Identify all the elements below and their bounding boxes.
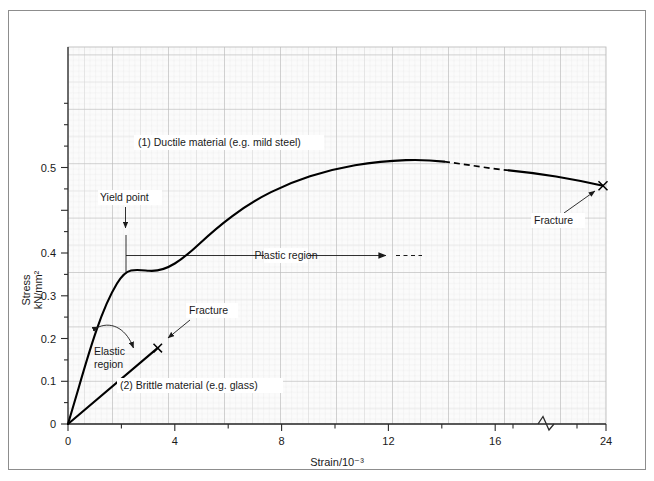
- x-axis-ticks: [68, 424, 606, 431]
- y-axis-ticks: [61, 103, 68, 424]
- y-tick-label-1: 0.1: [41, 375, 56, 387]
- x-tick-label-4: 16: [489, 435, 501, 447]
- x-tick-label-2: 8: [279, 435, 285, 447]
- elastic-region-label-line1: Elastic: [94, 345, 125, 357]
- y-axis-title: Stress kN/mm²: [20, 270, 44, 309]
- brittle-material-annotation: (2) Brittle material (e.g. glass): [117, 378, 283, 393]
- figure-container: 0 0.1 0.2 0.3 0.4 0.5 Stress kN/mm²: [0, 0, 654, 481]
- ductile-material-label: (1) Ductile material (e.g. mild steel): [138, 136, 301, 148]
- y-tick-label-2: 0.2: [41, 333, 56, 345]
- ductile-fracture-label: Fracture: [534, 214, 573, 226]
- x-tick-labels: 0 4 8 12 16 24: [65, 435, 612, 447]
- elastic-region-label-line2: region: [94, 358, 123, 370]
- brittle-fracture-label: Fracture: [189, 304, 228, 316]
- stress-strain-chart: 0 0.1 0.2 0.3 0.4 0.5 Stress kN/mm²: [0, 0, 654, 481]
- yield-point-label: Yield point: [100, 191, 149, 203]
- x-tick-label-5: 24: [600, 435, 612, 447]
- plot-grid: [68, 47, 606, 424]
- y-tick-label-5: 0.5: [41, 162, 56, 174]
- x-axis-title: Strain/10⁻³: [310, 456, 364, 468]
- y-axis-title-line1: Stress: [20, 274, 32, 306]
- y-tick-label-0: 0: [50, 418, 56, 430]
- x-tick-label-3: 12: [382, 435, 394, 447]
- brittle-material-label: (2) Brittle material (e.g. glass): [120, 379, 258, 391]
- y-tick-label-4: 0.4: [41, 247, 56, 259]
- plastic-region-label: Plastic region: [254, 249, 317, 261]
- ductile-material-annotation: (1) Ductile material (e.g. mild steel): [134, 135, 324, 150]
- x-tick-label-1: 4: [172, 435, 178, 447]
- y-axis-title-line2: kN/mm²: [32, 270, 44, 309]
- x-tick-label-0: 0: [65, 435, 71, 447]
